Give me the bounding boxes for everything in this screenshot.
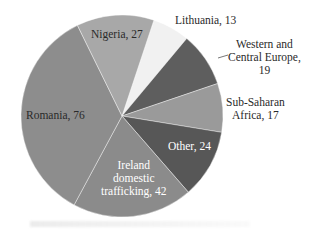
label-ireland-line1: Ireland	[101, 159, 167, 172]
label-nigeria: Nigeria, 27	[91, 28, 143, 41]
label-romania: Romania, 76	[26, 109, 85, 122]
label-ireland-line3: trafficking, 42	[101, 185, 167, 198]
label-wce-line3: 19	[228, 64, 301, 77]
faint-caption	[30, 221, 250, 227]
label-ireland: Ireland domestic trafficking, 42	[101, 159, 167, 198]
label-wce-line2: Central Europe,	[228, 51, 301, 64]
label-sub-saharan-africa: Sub-Saharan Africa, 17	[226, 96, 285, 122]
label-ssa-line1: Sub-Saharan	[226, 96, 285, 109]
label-ireland-line2: domestic	[101, 172, 167, 185]
label-western-central-europe: Western and Central Europe, 19	[228, 38, 301, 77]
wce-leader-line	[218, 55, 228, 58]
label-other: Other, 24	[168, 140, 211, 153]
label-wce-line1: Western and	[228, 38, 301, 51]
label-ssa-line2: Africa, 17	[226, 109, 285, 122]
label-lithuania: Lithuania, 13	[175, 14, 236, 27]
